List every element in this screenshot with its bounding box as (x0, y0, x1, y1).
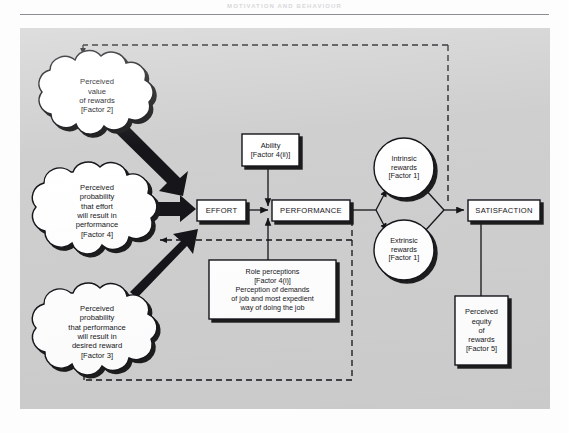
node-extrinsic-rewards[interactable] (374, 220, 434, 280)
node-perceived-probability-effort-performance[interactable] (32, 162, 157, 254)
header-rule (20, 14, 549, 15)
node-effort[interactable] (197, 200, 246, 221)
node-satisfaction[interactable] (468, 200, 540, 221)
node-perceived-value-of-rewards[interactable] (39, 51, 153, 134)
connector-performance-to-rewards-split (350, 189, 387, 231)
node-intrinsic-rewards[interactable] (374, 138, 434, 198)
thick-arrow-probability-reward-to-effort (130, 229, 198, 298)
node-perceived-equity-of-rewards[interactable] (455, 296, 508, 365)
figure-panel: Perceivedvalueof rewards[Factor 2] Perce… (20, 28, 550, 409)
node-role-perceptions[interactable] (209, 260, 336, 319)
connector-rewards-to-satisfaction (424, 188, 464, 232)
diagram-canvas (20, 28, 550, 409)
node-perceived-probability-performance-reward[interactable] (32, 283, 157, 375)
node-performance[interactable] (272, 200, 350, 221)
running-head: MOTIVATION AND BEHAVIOUR (0, 0, 569, 12)
node-ability[interactable] (242, 134, 299, 166)
